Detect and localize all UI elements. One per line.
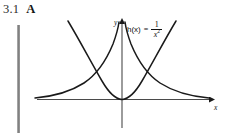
denominator-exponent: 2 — [157, 28, 160, 34]
fraction: 1 x2 — [151, 21, 162, 39]
function-name: h(x) — [127, 26, 141, 34]
fraction-denominator: x2 — [152, 30, 162, 39]
y-axis-label: y — [114, 19, 117, 27]
equals-sign: = — [144, 26, 149, 34]
function-label: h(x) = 1 x2 — [127, 21, 162, 39]
x-axis-label: x — [214, 104, 217, 112]
margin-rule-divider — [17, 25, 20, 133]
page-canvas: 3.1 A h(x) = — [0, 0, 233, 133]
exercise-number: 3.1 — [3, 3, 19, 16]
